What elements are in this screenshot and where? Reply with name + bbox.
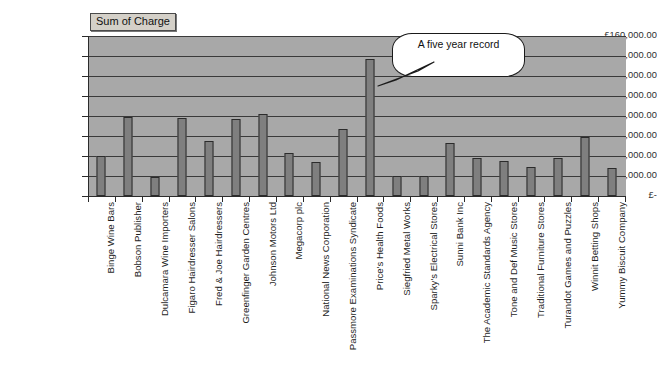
bar[interactable]: [365, 59, 374, 196]
x-axis-category-label: Traditional Furniture Stores: [535, 202, 546, 352]
x-axis-category-label: Bobson Publisher: [132, 202, 143, 352]
x-axis-category-label: Tone and Def Music Stores: [508, 202, 519, 352]
bar-slot: [88, 36, 115, 196]
bar[interactable]: [312, 162, 321, 196]
bar[interactable]: [204, 141, 213, 196]
bar-series: [88, 36, 625, 196]
callout-tail-icon: [376, 62, 436, 88]
x-axis-category-label: Johnson Motors Ltd: [267, 202, 278, 352]
x-axis-category-label: Fred & Joe Hairdressers: [213, 202, 224, 352]
bar[interactable]: [580, 137, 589, 196]
bar[interactable]: [553, 158, 562, 196]
bar-slot: [249, 36, 276, 196]
x-axis-category-label: Figaro Hairdresser Salons: [186, 202, 197, 352]
bar[interactable]: [392, 176, 401, 196]
legend-label: Sum of Charge: [96, 15, 170, 27]
callout-annotation[interactable]: A five year record: [392, 33, 525, 77]
x-axis-tick-mark: [88, 196, 89, 202]
x-axis-category-label: Turandot Games and Puzzles: [562, 202, 573, 352]
bar[interactable]: [285, 153, 294, 196]
x-axis-category-label: Yummy Biscuit Company: [616, 202, 627, 352]
bar[interactable]: [473, 158, 482, 196]
x-axis-category-label: Sunni Bank Inc: [454, 202, 465, 352]
bar[interactable]: [177, 118, 186, 196]
bar-slot: [330, 36, 357, 196]
bar[interactable]: [258, 114, 267, 196]
bar[interactable]: [527, 167, 536, 196]
legend-sum-of-charge[interactable]: Sum of Charge: [90, 13, 176, 31]
callout-text: A five year record: [392, 38, 525, 50]
x-axis-category-label: Passmore Examinations Syndicate: [347, 202, 358, 352]
x-axis-category-label: Price's Health Foods: [374, 202, 385, 352]
bar-slot: [544, 36, 571, 196]
x-axis-category-label: Siegfried Metal Works: [401, 202, 412, 352]
x-axis-category-label: Winnit Betting Shops: [589, 202, 600, 352]
x-axis-category-label: Greenfinger Garden Centres: [240, 202, 251, 352]
bar[interactable]: [339, 129, 348, 196]
bar[interactable]: [151, 177, 160, 196]
bar-slot: [571, 36, 598, 196]
bar[interactable]: [231, 119, 240, 196]
bar-slot: [276, 36, 303, 196]
bar-slot: [357, 36, 384, 196]
bar[interactable]: [446, 143, 455, 196]
x-axis-category-label: The Academic Standards Agency: [481, 202, 492, 352]
bar-slot: [115, 36, 142, 196]
bar[interactable]: [500, 161, 509, 196]
x-axis-category-label: Megacorp plc: [293, 202, 304, 352]
x-axis-category-label: Binge Wine Bars: [105, 202, 116, 352]
bar-slot: [222, 36, 249, 196]
bar-slot: [142, 36, 169, 196]
bar[interactable]: [97, 156, 106, 196]
bar-slot: [169, 36, 196, 196]
x-axis-category-label: Dulcamara Wine Importers: [159, 202, 170, 352]
bar-slot: [303, 36, 330, 196]
bar[interactable]: [419, 176, 428, 196]
bar-slot: [195, 36, 222, 196]
bar[interactable]: [124, 117, 133, 196]
chart-screenshot: £160,000.00£140,000.00£120,000.00£100,00…: [0, 0, 657, 378]
bar[interactable]: [607, 168, 616, 196]
x-axis-category-label: National News Corporation: [320, 202, 331, 352]
x-axis-category-label: Sparky's Electrical Stores: [428, 202, 439, 352]
bar-slot: [598, 36, 625, 196]
